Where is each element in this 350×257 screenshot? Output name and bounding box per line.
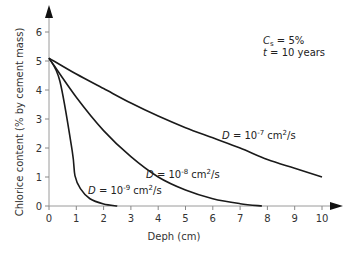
y-axis-label: Chlorice content (% by cement mass) bbox=[14, 28, 25, 217]
x-tick-label: 0 bbox=[46, 213, 52, 224]
label-d-1e-9: D = 10-9 cm2/s bbox=[88, 184, 162, 196]
x-tick-label: 1 bbox=[73, 213, 79, 224]
y-tick-label: 6 bbox=[36, 27, 42, 38]
x-axis-label: Deph (cm) bbox=[148, 231, 201, 242]
x-tick-label: 9 bbox=[292, 213, 298, 224]
y-tick-label: 3 bbox=[36, 114, 42, 125]
y-tick-label: 4 bbox=[36, 85, 42, 96]
x-tick-label: 4 bbox=[155, 213, 161, 224]
x-tick-label: 6 bbox=[210, 213, 216, 224]
y-tick-label: 0 bbox=[36, 201, 42, 212]
y-axis-arrow-icon bbox=[45, 5, 53, 18]
x-tick-label: 7 bbox=[237, 213, 243, 224]
x-ticks: 012345678910 bbox=[46, 206, 329, 224]
chloride-profile-chart: 0123456 012345678910 Chlorice content (%… bbox=[0, 0, 350, 257]
curve-d-1e-9 bbox=[49, 58, 117, 206]
x-tick-label: 2 bbox=[100, 213, 106, 224]
cs-symbol: C bbox=[263, 35, 270, 46]
x-tick-label: 5 bbox=[182, 213, 188, 224]
x-axis-arrow-icon bbox=[330, 202, 343, 210]
cs-value: = 5% bbox=[274, 35, 305, 46]
curve-d-1e-7 bbox=[49, 58, 322, 177]
x-tick-label: 3 bbox=[128, 213, 134, 224]
y-tick-label: 2 bbox=[36, 143, 42, 154]
t-value: = 10 years bbox=[267, 47, 325, 58]
y-tick-label: 1 bbox=[36, 172, 42, 183]
x-tick-label: 8 bbox=[264, 213, 270, 224]
label-d-1e-7: D = 10-7 cm2/s bbox=[222, 129, 296, 141]
y-tick-label: 5 bbox=[36, 56, 42, 67]
t-annotation: t = 10 years bbox=[263, 47, 325, 58]
y-ticks: 0123456 bbox=[36, 27, 49, 212]
x-tick-label: 10 bbox=[316, 213, 329, 224]
label-d-1e-8: D = 10-8 cm2/s bbox=[146, 168, 220, 180]
